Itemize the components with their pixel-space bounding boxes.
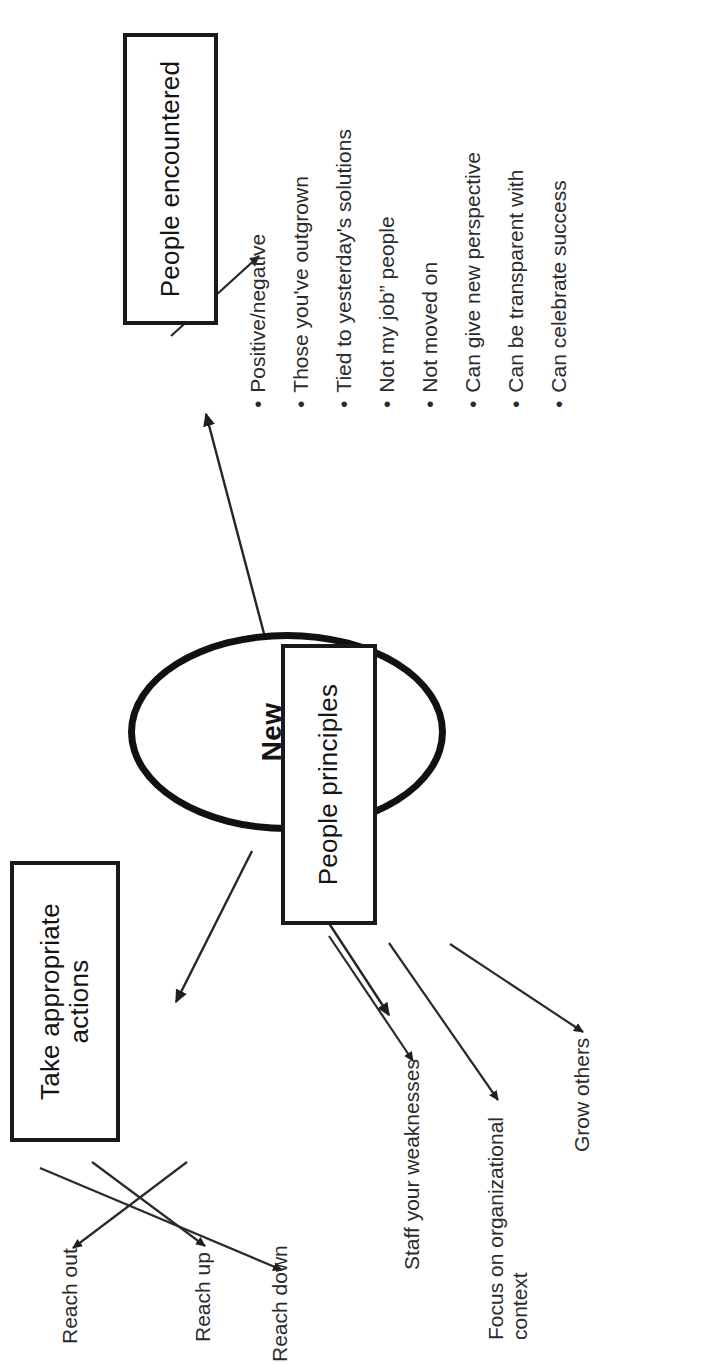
edge-actions-to-reach-up <box>92 1162 205 1246</box>
bullet-marker-icon: • <box>548 401 569 408</box>
bullet-marker-icon: • <box>376 401 397 408</box>
bullet-marker-icon: • <box>247 401 268 408</box>
bullet-marker-icon: • <box>333 401 354 408</box>
bullet-item-label: Can celebrate success <box>547 180 571 392</box>
leaf-reach-up: Reach up <box>191 1252 215 1342</box>
node-people-encountered-label: People encountered <box>156 61 185 297</box>
leaf-reach-up-label: Reach up <box>191 1252 214 1342</box>
node-take-appropriate-actions[interactable]: Take appropriate actions <box>10 861 120 1142</box>
leaf-staff-your-weaknesses: Staff your weaknesses <box>400 1059 424 1270</box>
bullet-marker-icon: • <box>290 401 311 408</box>
leaf-reach-out: Reach out <box>58 1248 82 1344</box>
leaf-focus-on-organizational-context: Focus on organizational context <box>484 1095 532 1340</box>
leaf-grow-others: Grow others <box>570 1038 594 1152</box>
leaf-reach-down: Reach down <box>268 1245 292 1362</box>
leaf-grow-others-label: Grow others <box>570 1038 593 1152</box>
bullet-item: •Can give new perspective <box>461 152 485 408</box>
edge-principles-to-grow-others <box>450 944 583 1032</box>
leaf-reach-down-label: Reach down <box>268 1245 291 1362</box>
edge-newpeople-to-actions <box>176 851 252 1002</box>
node-people-principles-label: People principles <box>314 684 343 885</box>
bullet-item-label: Positive/negative <box>246 234 270 393</box>
bullet-marker-icon: • <box>462 401 483 408</box>
node-take-appropriate-actions-label: Take appropriate actions <box>36 903 94 1100</box>
bullet-item: •Tied to yesterday's solutions <box>332 129 356 408</box>
bullet-item: •Can be transparent with <box>504 170 528 408</box>
bullet-item-label: Those you've outgrown <box>289 176 313 392</box>
node-people-principles[interactable]: People principles <box>281 644 377 925</box>
bullet-item-label: Not moved on <box>418 262 442 393</box>
bullet-item-label: Can be transparent with <box>504 170 528 393</box>
bullet-item: •Not moved on <box>418 262 442 408</box>
bullet-item: •Positive/negative <box>246 234 270 408</box>
leaf-staff-your-weaknesses-label: Staff your weaknesses <box>400 1059 423 1270</box>
diagram-canvas: New People Take appropriate actions Peop… <box>0 0 718 1368</box>
bullet-marker-icon: • <box>505 401 526 408</box>
leaf-reach-out-label: Reach out <box>58 1248 81 1344</box>
diagram-page: New People Take appropriate actions Peop… <box>0 0 718 1368</box>
bullet-item: •Those you've outgrown <box>289 176 313 408</box>
bullet-item-label: Can give new perspective <box>461 152 485 392</box>
bullet-marker-icon: • <box>419 401 440 408</box>
bullet-item: •Can celebrate success <box>547 180 571 408</box>
bullet-item-label: Not my job” people <box>375 216 399 392</box>
edge-principles-to-staff-weaknesses <box>329 936 413 1061</box>
bullet-item: •Not my job” people <box>375 216 399 408</box>
leaf-focus-on-organizational-context-label: Focus on organizational context <box>484 1117 531 1340</box>
node-people-encountered[interactable]: People encountered <box>123 33 218 325</box>
bullet-item-label: Tied to yesterday's solutions <box>332 129 356 393</box>
